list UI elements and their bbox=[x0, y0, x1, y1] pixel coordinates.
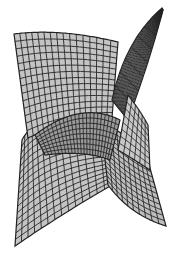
mesh-surface bbox=[0, 0, 178, 259]
surface-figure bbox=[0, 0, 178, 259]
top-right-spike bbox=[112, 8, 163, 120]
